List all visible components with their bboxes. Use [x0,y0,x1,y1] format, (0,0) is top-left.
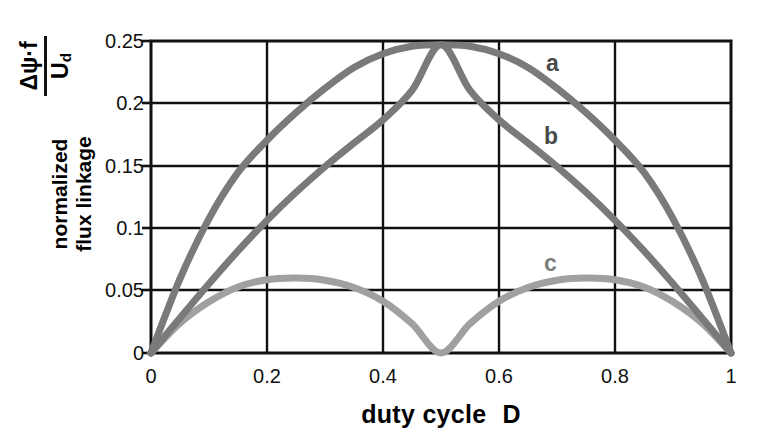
grid-vertical [267,41,615,353]
plot-area [0,0,759,444]
data-curves [151,45,731,353]
curve-a [151,45,731,353]
curve-b [151,45,731,353]
grid-horizontal [151,103,731,290]
plot-frame [151,41,731,353]
chart-figure: Δψ·f Ud normalized flux linkage 0.25 0.2… [0,0,759,444]
